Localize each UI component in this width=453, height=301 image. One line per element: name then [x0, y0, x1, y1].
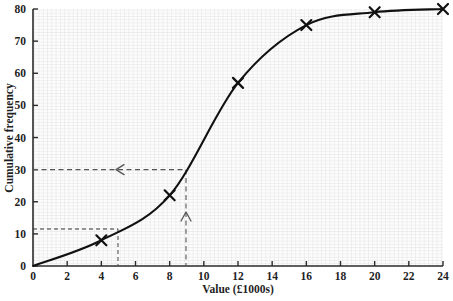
- y-axis-title: Cumulative frequency: [3, 83, 16, 193]
- y-tick-label-30: 30: [15, 164, 27, 176]
- x-tick-label-6: 6: [133, 270, 139, 282]
- y-tick-label-50: 50: [15, 99, 27, 111]
- x-tick-label-16: 16: [301, 270, 313, 282]
- x-tick-label-0: 0: [30, 270, 36, 282]
- y-tick-label-70: 70: [15, 35, 27, 47]
- plot-grid-background: [33, 9, 443, 266]
- x-tick-label-4: 4: [98, 270, 104, 282]
- y-tick-label-10: 10: [15, 228, 27, 240]
- x-tick-label-22: 22: [403, 270, 415, 282]
- y-tick-label-0: 0: [20, 260, 26, 272]
- x-tick-label-10: 10: [198, 270, 210, 282]
- x-tick-label-12: 12: [232, 270, 244, 282]
- cumulative-frequency-chart: 01020304050607080 024681012141618202224 …: [0, 0, 453, 301]
- x-tick-label-2: 2: [64, 270, 70, 282]
- x-tick-label-20: 20: [369, 270, 381, 282]
- y-tick-label-20: 20: [15, 196, 27, 208]
- x-tick-label-14: 14: [266, 270, 278, 282]
- y-tick-label-40: 40: [15, 132, 27, 144]
- y-tick-label-60: 60: [15, 67, 27, 79]
- chart-canvas: 01020304050607080 024681012141618202224 …: [0, 0, 453, 301]
- y-tick-label-80: 80: [15, 3, 27, 15]
- x-axis-title: Value (£1000s): [202, 283, 274, 296]
- x-tick-label-8: 8: [167, 270, 173, 282]
- x-tick-label-18: 18: [335, 270, 347, 282]
- x-tick-label-24: 24: [437, 270, 449, 282]
